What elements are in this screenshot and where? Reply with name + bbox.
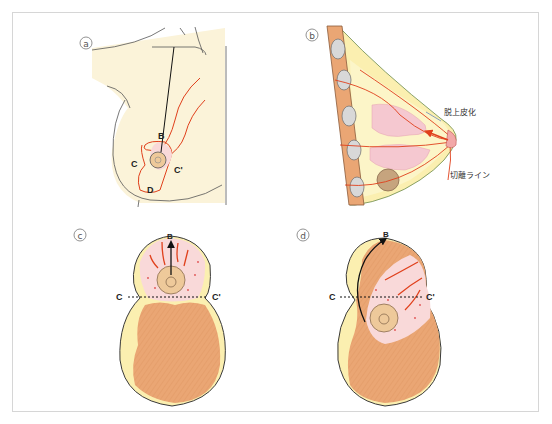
svg-text:d: d — [300, 231, 306, 241]
areola — [150, 152, 166, 168]
label-c-b: B — [167, 232, 173, 241]
label-a-c-prime: C' — [174, 165, 183, 175]
areola-d — [370, 304, 398, 332]
panel-b-tag: b — [306, 29, 318, 41]
annotation-deepithelialization: 脱上皮化 — [444, 107, 476, 117]
panel-d: d B C C' — [297, 229, 441, 406]
panel-c: c B C C' — [74, 229, 225, 406]
svg-text:b: b — [309, 31, 315, 41]
panel-d-tag: d — [297, 229, 309, 241]
panel-a: a B C C' D — [80, 27, 226, 207]
skin-area — [92, 28, 225, 203]
panel-a-tag: a — [80, 37, 92, 49]
label-a-c: C — [131, 159, 138, 169]
annotation-excision-line: 切離ライン — [450, 170, 490, 180]
panel-c-tag: c — [74, 229, 86, 241]
label-d-c-prime: C' — [426, 292, 435, 302]
surgical-diagram: a B C C' D b — [0, 0, 552, 424]
label-a-d: D — [147, 185, 154, 195]
svg-text:c: c — [78, 231, 83, 241]
tumor — [377, 169, 399, 191]
label-c-c: C — [116, 292, 123, 302]
label-d-c: C — [329, 292, 336, 302]
label-c-c-prime: C' — [212, 292, 221, 302]
lower-tissue-c — [133, 303, 220, 404]
label-d-b: B — [383, 230, 389, 239]
svg-text:a: a — [83, 39, 89, 49]
label-a-b: B — [158, 131, 165, 141]
panel-b: b 脱上皮化 — [306, 26, 490, 205]
